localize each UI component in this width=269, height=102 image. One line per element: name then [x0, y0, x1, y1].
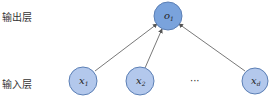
node-o1: o1	[154, 2, 182, 30]
ellipsis: ···	[190, 75, 200, 86]
node-x2: x2	[126, 67, 154, 95]
edge-xd-o1	[179, 24, 245, 71]
network-diagram: o1 x1 x2 xd ···	[0, 0, 269, 102]
node-x1: x1	[69, 67, 97, 95]
node-xd: xd	[242, 68, 268, 94]
edge-x2-o1	[145, 29, 162, 68]
edge-x1-o1	[95, 24, 157, 71]
